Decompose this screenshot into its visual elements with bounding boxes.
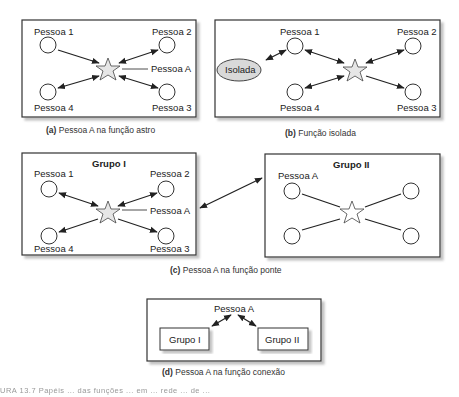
node-label: Pessoa 3 [397, 102, 437, 113]
node-label: Pessoa A [278, 170, 319, 181]
diagram-canvas: Pessoa 1 Pessoa 2 Pessoa 3 Pessoa 4 Pess… [0, 0, 459, 397]
node-label: Pessoa 4 [34, 102, 74, 113]
person-node [158, 181, 174, 197]
person-node [287, 84, 303, 100]
person-node [405, 84, 421, 100]
person-node [158, 228, 174, 244]
bridge-arrow [200, 178, 262, 208]
figure-caption-partial: URA 13.7 Papéis ... das funções ... em .… [0, 386, 210, 395]
caption-c: (c) Pessoa A na função ponte [170, 265, 282, 275]
person-node [284, 183, 300, 199]
person-node [287, 38, 303, 54]
panel-a: Pessoa 1 Pessoa 2 Pessoa 3 Pessoa 4 Pess… [22, 20, 196, 135]
top-label: Pessoa A [214, 303, 255, 314]
node-label: Pessoa 2 [152, 26, 192, 37]
node-label: Pessoa 2 [397, 26, 437, 37]
node-label: Pessoa 2 [150, 168, 190, 179]
person-node [159, 84, 175, 100]
caption-b: (b) Função isolada [285, 128, 356, 138]
person-node [403, 183, 419, 199]
group-1-title: Grupo I [92, 158, 126, 169]
person-node [405, 38, 421, 54]
person-node [41, 181, 57, 197]
node-label: Pessoa 1 [280, 26, 320, 37]
node-label: Pessoa 4 [280, 102, 320, 113]
person-node [40, 37, 56, 53]
group-2-title: Grupo II [333, 159, 369, 170]
panel-b: Pessoa 1 Pessoa 2 Pessoa 3 Pessoa 4 Isol… [215, 20, 440, 138]
person-node [284, 228, 300, 244]
node-label: Pessoa 1 [34, 168, 74, 179]
center-label: Pessoa A [150, 205, 191, 216]
group-1-label: Grupo I [169, 334, 201, 345]
node-label: Pessoa 4 [34, 243, 74, 254]
group-2-label: Grupo II [265, 334, 299, 345]
node-label: Pessoa 1 [34, 26, 74, 37]
person-node [159, 37, 175, 53]
panel-c: Grupo I Pessoa 1 Pessoa 2 Pessoa 3 Pesso… [22, 153, 440, 275]
caption-d: (d) Pessoa A na função conexão [162, 367, 285, 377]
panel-d: Pessoa A Grupo I Grupo II (d) Pessoa A n… [147, 299, 321, 377]
isolated-label: Isolada [225, 64, 256, 75]
center-label: Pessoa A [151, 63, 192, 74]
node-label: Pessoa 3 [150, 243, 190, 254]
person-node [403, 228, 419, 244]
person-node [41, 228, 57, 244]
caption-a: (a) Pessoa A na função astro [46, 125, 155, 135]
node-label: Pessoa 3 [152, 102, 192, 113]
person-node [40, 84, 56, 100]
